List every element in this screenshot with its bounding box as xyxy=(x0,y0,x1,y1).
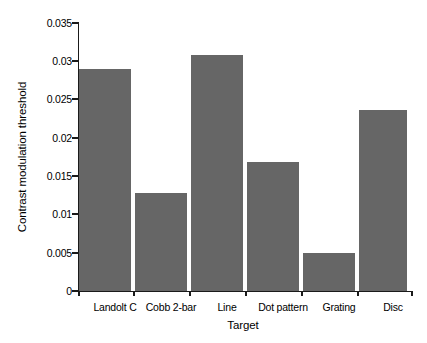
y-tick-label: 0.015 xyxy=(28,171,72,181)
bar-line xyxy=(191,55,243,291)
x-axis-tick xyxy=(301,291,303,296)
y-axis-tick xyxy=(72,252,78,254)
bar-disc xyxy=(359,110,407,291)
x-axis-tick xyxy=(357,291,359,296)
y-axis-tick xyxy=(72,22,78,24)
bar-chart: Contrast modulation threshold 0.035 0.03… xyxy=(0,0,427,343)
y-tick-label: 0.035 xyxy=(28,18,72,28)
y-axis-tick-labels: 0.035 0.03 0.025 0.02 0.015 0.01 0.005 0 xyxy=(26,0,72,343)
bar-grating xyxy=(303,253,355,291)
x-axis-title: Target xyxy=(79,318,407,332)
plot-area xyxy=(79,23,407,291)
y-axis-tick xyxy=(72,137,78,139)
y-tick-label: 0.005 xyxy=(28,248,72,258)
y-tick-label: 0.025 xyxy=(28,94,72,104)
x-tick-label-disc: Disc xyxy=(357,300,427,314)
y-axis-tick xyxy=(72,213,78,215)
x-axis-tick xyxy=(189,291,191,296)
x-axis-tick xyxy=(245,291,247,296)
y-axis-tick xyxy=(72,60,78,62)
bar-landolt-c xyxy=(79,69,131,291)
x-axis-tick xyxy=(133,291,135,296)
x-axis-tick-labels: Landolt C Cobb 2-bar Line Dot pattern Gr… xyxy=(60,300,420,316)
y-axis-tick xyxy=(72,175,78,177)
y-tick-label: 0.01 xyxy=(28,209,72,219)
bar-cobb-2-bar xyxy=(135,193,187,291)
y-axis-tick xyxy=(72,98,78,100)
y-tick-label: 0 xyxy=(28,286,72,296)
y-tick-label: 0.02 xyxy=(28,133,72,143)
x-axis-tick xyxy=(78,291,80,296)
x-axis-tick xyxy=(411,291,413,296)
y-tick-label: 0.03 xyxy=(28,56,72,66)
bar-dot-pattern xyxy=(247,162,299,291)
